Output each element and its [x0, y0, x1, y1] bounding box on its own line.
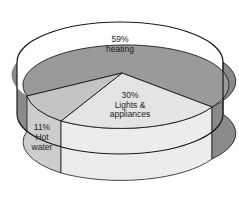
lights-pct-label: 30%: [121, 90, 138, 100]
heating-pct-label: 59%: [111, 34, 128, 44]
heating-name-label: heating: [106, 44, 134, 54]
pie-chart-3d: 59% heating 30% Lights & appliances 11% …: [0, 0, 239, 202]
hot-water-name-label-1: Hot: [35, 132, 49, 142]
hot-water-name-label-2: water: [31, 142, 53, 152]
hot-water-pct-label: 11%: [34, 122, 51, 132]
heating-side-left: [11, 62, 27, 131]
lights-name-label-2: appliances: [110, 109, 151, 119]
